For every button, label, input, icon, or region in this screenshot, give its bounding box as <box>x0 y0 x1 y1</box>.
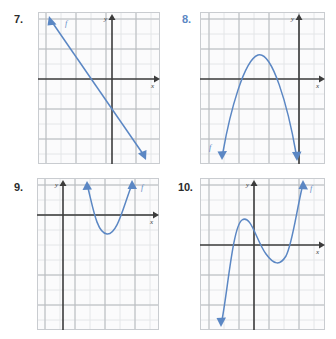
graph-10: x y f <box>200 178 325 330</box>
problem-panel-8: 8. <box>168 0 336 170</box>
problem-panel-7: 7. <box>0 0 168 170</box>
graph-background <box>37 178 159 330</box>
graph-7: x y f <box>38 12 160 164</box>
graph-background <box>38 12 160 164</box>
problem-panel-9: 9. <box>0 170 168 339</box>
problem-panel-10: 10. <box>168 170 336 339</box>
graph-background <box>200 12 325 164</box>
graph-8: x y f <box>200 12 325 164</box>
graph-background <box>200 178 325 330</box>
graph-8-svg: x y f <box>200 12 325 164</box>
problem-number-10: 10. <box>178 181 193 193</box>
problem-number-7: 7. <box>14 13 23 25</box>
worksheet-page: 7. <box>0 0 336 339</box>
graph-10-svg: x y f <box>200 178 325 330</box>
problem-number-9: 9. <box>14 181 23 193</box>
graph-7-svg: x y f <box>38 12 160 164</box>
graph-9-svg: x y f <box>37 178 159 330</box>
problem-number-8: 8. <box>182 13 191 25</box>
graph-9: x y f <box>37 178 159 330</box>
